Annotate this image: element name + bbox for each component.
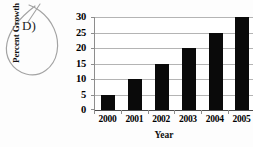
y-tick-label: 10 <box>62 73 86 84</box>
bar <box>128 79 142 110</box>
bar <box>182 48 196 110</box>
x-tick-label: 2004 <box>201 114 228 124</box>
bar <box>155 64 169 111</box>
bar-series <box>95 17 253 110</box>
bar-chart: Percent Growth 30 25 20 15 10 5 0 <box>0 0 253 147</box>
bar <box>209 33 223 111</box>
worksheet-page: D) Percent Growth 30 25 20 15 10 5 0 <box>0 0 253 147</box>
y-axis-tick-labels: 30 25 20 15 10 5 0 <box>62 11 86 115</box>
y-tick-label: 30 <box>62 11 86 22</box>
x-tick-label: 2005 <box>228 114 253 124</box>
x-tick-label: 2000 <box>94 114 121 124</box>
x-tick-label: 2003 <box>174 114 201 124</box>
y-tick-label: 20 <box>62 42 86 53</box>
y-tick-label: 5 <box>62 89 86 100</box>
bar <box>235 17 249 110</box>
y-axis-title: Percent Growth <box>11 0 21 75</box>
x-tick-label: 2001 <box>121 114 148 124</box>
bar <box>101 95 115 111</box>
y-tick-label: 25 <box>62 27 86 38</box>
x-axis-title: Year <box>94 130 234 140</box>
y-tick-label: 15 <box>62 58 86 69</box>
x-tick-label: 2002 <box>148 114 175 124</box>
x-axis-tick-labels: 2000 2001 2002 2003 2004 2005 <box>94 114 253 126</box>
plot-area <box>94 17 253 110</box>
y-tick-label: 0 <box>62 104 86 115</box>
